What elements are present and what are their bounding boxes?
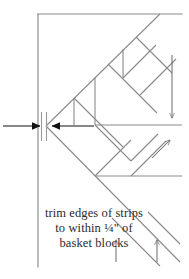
quilt-trim-diagram: trim edges of strips to within ¼" of bas… (0, 0, 189, 279)
lattice-diagonal-lower-b (131, 134, 158, 161)
lattice-diagonal-cross-a (123, 45, 156, 78)
lattice-arrow-diagonal-right (152, 140, 170, 158)
lattice-diagonal-bottom-b (148, 212, 180, 244)
caption-line-2: to within ¼" of (41, 221, 147, 236)
lattice-diagonal-row1-c (136, 37, 172, 73)
lattice-diagonal-lower-c (95, 140, 131, 176)
lattice-diagonal-lower-a (95, 125, 131, 161)
caption-line-1: trim edges of strips (41, 206, 147, 221)
lattice-diagonal-row1-a (74, 98, 123, 147)
lattice-diagonal-main-upper (46, 14, 160, 126)
lattice-diagonal-row1-b (108, 64, 157, 113)
lattice-diagonal-lower-d (131, 141, 166, 176)
caption-line-3: basket blocks (41, 236, 147, 251)
lattice-diagonal-cross-b (140, 59, 176, 95)
caption: trim edges of strips to within ¼" of bas… (41, 206, 147, 251)
